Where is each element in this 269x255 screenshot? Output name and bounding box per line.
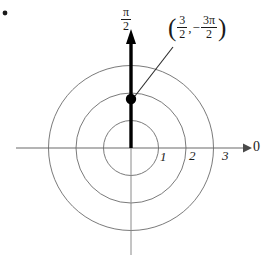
radial-tick-label-2: 2 [189,149,196,162]
vertical-axis-label: π 2 [120,6,132,32]
pi-over-two-fraction: π 2 [121,6,131,32]
coordinate-theta-numerator: 3π [201,14,217,27]
pi-over-two-denominator: 2 [121,19,131,33]
coordinate-r-fraction: 3 2 [177,14,187,40]
coordinate-close-paren: ) [218,14,226,41]
point-coordinate-label: ( 3 2 ,− 3π 2 ) [168,14,226,40]
coordinate-open-paren: ( [168,14,176,41]
pi-over-two-numerator: π [121,6,131,19]
polar-axis-label: 0 [253,140,260,154]
coordinate-theta-fraction: 3π 2 [201,14,217,40]
coordinate-theta-denominator: 2 [201,27,217,41]
horizontal-axis-arrow-icon [243,144,252,153]
radial-tick-label-1: 1 [160,150,167,163]
annotation-leader-line [135,47,173,96]
radial-tick-label-3: 3 [222,149,229,162]
polar-plot-svg [0,0,269,255]
polar-plot-figure: π 2 ( 3 2 ,− 3π 2 ) 1 2 3 0 [0,0,269,255]
coordinate-minus-sign: − [192,20,200,35]
coordinate-r-denominator: 2 [177,27,187,41]
bullet-dot [3,11,8,16]
plotted-point [126,94,136,104]
coordinate-r-numerator: 3 [177,14,187,27]
